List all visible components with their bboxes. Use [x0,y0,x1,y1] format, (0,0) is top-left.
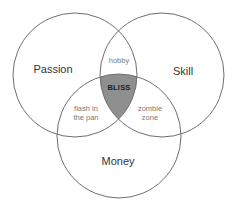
money-label: Money [101,155,134,168]
bliss-region [57,74,181,198]
passion-label: Passion [33,63,72,76]
venn-svg [0,0,235,212]
flash-in-the-pan-line2: the pan [73,114,98,123]
skill-label: Skill [173,65,193,78]
bliss-label: BLISS [107,84,130,93]
flash-in-the-pan-label: flash in the pan [73,105,98,122]
zombie-zone-label: zombie zone [138,105,162,122]
hobby-label: hobby [109,57,129,66]
zombie-zone-line2: zone [138,114,162,123]
venn-diagram: Passion Skill Money hobby flash in the p… [0,0,235,212]
